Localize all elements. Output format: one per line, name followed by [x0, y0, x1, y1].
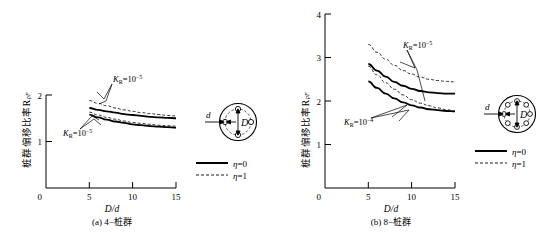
- x-tick-10-b: 10: [407, 192, 417, 202]
- y-tick-1-a: 1: [38, 137, 43, 147]
- D-dimension-label-a: D: [240, 117, 249, 128]
- annotation-kr-lower-b: KR=10−4: [343, 105, 409, 128]
- y-tick-2-a: 2: [38, 91, 43, 101]
- chart-a-svg: 桩群偏移比率R pF 2 1 0: [0, 0, 279, 232]
- y-axis-label-a: 桩群偏移比率R pF: [21, 92, 32, 168]
- y-tick-0-b: 0: [317, 192, 322, 202]
- chart-b-svg: 桩群偏移比率R pF 4 3 2 1 0: [279, 0, 558, 232]
- x-tick-10-a: 10: [128, 192, 138, 202]
- curve-kr4-eta0-b: [368, 81, 455, 111]
- x-axis-label-b: D/d: [383, 204, 399, 214]
- pile-node: [524, 102, 529, 107]
- annotation-kr-lower-a: KR=10−5: [62, 116, 101, 139]
- svg-text:KR=10−4: KR=10−4: [343, 117, 373, 129]
- panel-caption-b: (b) 8−桩群: [371, 216, 411, 227]
- y-axis-label-b: 桩群偏移比率R pF: [300, 92, 311, 168]
- y-tick-labels-b: 4 3 2 1 0: [317, 10, 322, 203]
- d-dimension-label-a: d: [206, 110, 211, 120]
- y-tick-2-b: 2: [317, 97, 322, 107]
- y-axis-label-sub-b: pF: [304, 92, 310, 100]
- svg-text:KR=10−5: KR=10−5: [402, 40, 432, 52]
- x-tick-15-b: 15: [451, 192, 461, 202]
- figure-container: 桩群偏移比率R pF 2 1 0: [0, 0, 558, 232]
- chart-panel-b: 桩群偏移比率R pF 4 3 2 1 0: [279, 0, 558, 232]
- svg-text:KR=10−5: KR=10−5: [112, 74, 142, 86]
- x-tick-5-b: 5: [366, 192, 371, 202]
- panel-caption-a: (a) 4−桩群: [92, 216, 132, 227]
- svg-text:D/d: D/d: [383, 204, 399, 214]
- y-ticks-a: [46, 95, 52, 142]
- pile-group-8-diagram: D d: [484, 96, 536, 133]
- pile-node: [505, 121, 510, 126]
- x-axis-label-a: D/d: [104, 204, 120, 214]
- x-tick-5-a: 5: [87, 192, 92, 202]
- curves-a: [89, 101, 176, 128]
- d-dimension-label-b: d: [485, 102, 490, 112]
- legend-label-eta0-a: η=0: [233, 159, 248, 169]
- y-tick-3-b: 3: [317, 53, 322, 63]
- legend-label-eta1-a: η=1: [233, 171, 247, 181]
- curve-kr5-eta0-b: [368, 64, 455, 94]
- curve-kr5-eta0-a: [89, 108, 176, 118]
- legend-b: η=0 η=1: [475, 147, 527, 169]
- y-tick-1-b: 1: [317, 140, 322, 150]
- axis-lines-a: [46, 95, 176, 188]
- y-tick-4-b: 4: [317, 10, 322, 20]
- pile-node: [248, 119, 253, 124]
- y-ticks-b: [325, 14, 331, 145]
- pile-node: [505, 102, 510, 107]
- pile-node: [528, 112, 533, 117]
- legend-label-eta1-b: η=1: [512, 159, 526, 169]
- D-dimension-label-b: D: [519, 109, 528, 120]
- x-tick-labels-b: 5 10 15: [366, 192, 460, 202]
- y-tick-0-a: 0: [38, 192, 43, 202]
- x-tick-15-a: 15: [172, 192, 182, 202]
- svg-text:D/d: D/d: [104, 204, 120, 214]
- chart-panel-a: 桩群偏移比率R pF 2 1 0: [0, 0, 279, 232]
- svg-text:KR=10−5: KR=10−5: [62, 128, 92, 140]
- axis-lines-b: [325, 14, 455, 188]
- pile-group-4-diagram: D d: [205, 104, 257, 141]
- y-tick-labels-a: 2 1 0: [38, 91, 43, 203]
- y-axis-label-sub-a: pF: [25, 92, 31, 100]
- x-tick-labels-a: 5 10 15: [87, 192, 181, 202]
- x-ticks-b: [368, 182, 455, 188]
- annotation-kr-upper-a: KR=10−5: [97, 74, 142, 105]
- legend-label-eta0-b: η=0: [512, 147, 527, 157]
- svg-text:桩群偏移比率R: 桩群偏移比率R: [300, 99, 311, 168]
- curves-b: [368, 44, 455, 111]
- svg-text:桩群偏移比率R: 桩群偏移比率R: [21, 99, 32, 168]
- x-ticks-a: [89, 182, 176, 188]
- pile-node: [524, 121, 529, 126]
- legend-a: η=0 η=1: [196, 159, 248, 181]
